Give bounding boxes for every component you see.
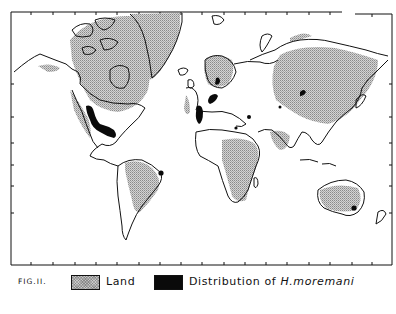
distribution-label-prefix: Distribution of <box>189 275 280 288</box>
distribution-swatch <box>154 275 183 290</box>
legend: FIG.II. Land Distribution of H.moremani <box>0 272 396 294</box>
figure-label: FIG.II. <box>18 277 47 286</box>
world-map <box>0 0 396 270</box>
land-swatch <box>71 275 100 290</box>
species-name: H.moremani <box>280 275 354 288</box>
distribution-legend-label: Distribution of H.moremani <box>189 275 354 288</box>
land-legend-label: Land <box>106 275 135 288</box>
